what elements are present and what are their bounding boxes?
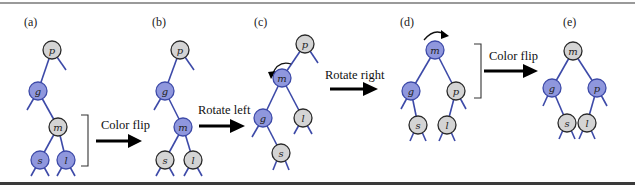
svg-text:g: g — [549, 83, 555, 94]
svg-text:l: l — [445, 120, 448, 131]
node-p: p — [171, 41, 189, 59]
svg-text:m: m — [568, 46, 577, 57]
svg-text:g: g — [162, 86, 168, 97]
bracket — [81, 115, 88, 166]
op-rotate-right: Rotate right — [325, 68, 385, 96]
node-l: l — [57, 151, 75, 169]
node-g: g — [543, 79, 561, 97]
panel-d-label: (d) — [400, 15, 414, 29]
svg-text:p: p — [177, 45, 184, 56]
arrow-head-icon — [128, 134, 142, 148]
node-p: p — [588, 79, 606, 97]
node-g: g — [29, 82, 47, 100]
panel-e-label: (e) — [563, 15, 576, 29]
panel-b-label: (b) — [152, 15, 166, 29]
svg-text:m: m — [178, 122, 187, 133]
node-m: m — [174, 118, 192, 136]
svg-text:p: p — [594, 83, 601, 94]
node-p: p — [43, 41, 61, 59]
svg-text:s: s — [37, 155, 42, 166]
svg-text:p: p — [302, 39, 309, 50]
node-s: s — [558, 114, 576, 132]
panel-c-label: (c) — [254, 15, 267, 29]
arrow-head-icon — [523, 64, 538, 78]
op-label: Rotate right — [325, 68, 385, 82]
svg-text:l: l — [301, 113, 304, 124]
node-l: l — [578, 114, 596, 132]
node-s: s — [31, 151, 49, 169]
svg-text:m: m — [277, 73, 286, 84]
node-m: m — [273, 69, 291, 87]
arrow-head-icon — [363, 82, 378, 96]
svg-text:p: p — [453, 86, 460, 97]
svg-text:s: s — [162, 155, 167, 166]
op-rotate-left: Rotate left — [198, 103, 251, 133]
node-s: s — [156, 151, 174, 169]
rb-tree-diagram: (a) p g m s l Color flip (b) — [0, 0, 635, 185]
node-l: l — [294, 109, 312, 127]
panel-d: (d) m g p s l — [400, 15, 466, 141]
node-s: s — [272, 144, 290, 162]
panel-c: (c) p m g l s — [252, 15, 318, 170]
node-m: m — [564, 42, 582, 60]
svg-text:g: g — [35, 86, 41, 97]
svg-text:l: l — [64, 155, 67, 166]
svg-text:m: m — [430, 45, 439, 56]
op-label: Rotate left — [198, 103, 251, 117]
panel-a-label: (a) — [24, 15, 37, 29]
node-s: s — [409, 116, 427, 134]
panel-e: (e) m g p s l — [543, 15, 607, 139]
svg-text:s: s — [278, 148, 283, 159]
panel-b: (b) p g m s l — [152, 15, 202, 176]
node-g: g — [402, 82, 420, 100]
svg-text:g: g — [260, 113, 266, 124]
svg-text:g: g — [408, 86, 414, 97]
svg-text:m: m — [53, 122, 62, 133]
op-label: Color flip — [489, 49, 538, 63]
bracket — [474, 44, 481, 98]
svg-text:p: p — [49, 45, 56, 56]
svg-text:l: l — [585, 118, 588, 129]
node-p: p — [447, 82, 465, 100]
node-g: g — [254, 109, 272, 127]
node-l: l — [438, 116, 456, 134]
node-l: l — [184, 151, 202, 169]
node-p: p — [296, 35, 314, 53]
panel-a: (a) p g m s l — [24, 15, 75, 176]
svg-text:s: s — [415, 120, 420, 131]
svg-text:s: s — [564, 118, 569, 129]
node-g: g — [156, 82, 174, 100]
op-color-flip-2: Color flip — [474, 44, 538, 98]
rotate-arc-head-icon — [441, 30, 449, 39]
op-color-flip-1: Color flip — [81, 115, 150, 166]
bottom-border — [0, 182, 635, 185]
node-m: m — [49, 118, 67, 136]
arrow-head-icon — [230, 119, 245, 133]
svg-text:l: l — [191, 155, 194, 166]
op-label: Color flip — [101, 118, 150, 132]
node-m: m — [426, 41, 444, 59]
